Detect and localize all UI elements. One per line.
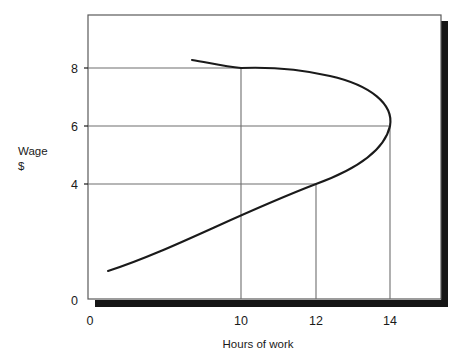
ytick-label-6: 6 bbox=[71, 120, 78, 134]
ytick-label-8: 8 bbox=[71, 62, 78, 76]
y-axis-label-line1: Wage bbox=[18, 145, 48, 157]
plot-bottom-shadow bbox=[95, 300, 448, 307]
plot-frame bbox=[88, 15, 441, 299]
xtick-label-0: 0 bbox=[87, 314, 94, 328]
xtick-label-12: 12 bbox=[309, 314, 323, 328]
ytick-label-4: 4 bbox=[71, 178, 78, 192]
wage-hours-chart: 8 6 4 0 Wage $ 0 10 12 14 Hours of work bbox=[0, 0, 469, 359]
x-axis-label: Hours of work bbox=[223, 338, 294, 350]
ytick-label-0: 0 bbox=[71, 294, 78, 308]
y-axis-label-line2: $ bbox=[18, 160, 25, 172]
xtick-label-14: 14 bbox=[383, 314, 397, 328]
xtick-label-10: 10 bbox=[234, 314, 248, 328]
plot-right-shadow bbox=[441, 21, 448, 307]
